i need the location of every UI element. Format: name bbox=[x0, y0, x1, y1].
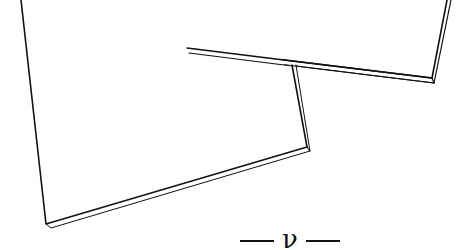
nu-label: ν bbox=[234, 226, 346, 250]
front-panel bbox=[21, 0, 310, 228]
nu-symbol: ν bbox=[282, 226, 298, 250]
sheets-illustration bbox=[0, 0, 472, 250]
right-dash bbox=[306, 240, 340, 242]
left-dash bbox=[240, 240, 274, 242]
figure-canvas: ν bbox=[0, 0, 472, 250]
